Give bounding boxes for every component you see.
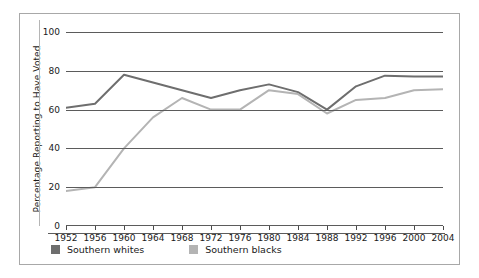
- x-tick-1976: [240, 226, 241, 230]
- x-tick-1988: [327, 226, 328, 230]
- gridline-20: [66, 187, 443, 188]
- x-tick-label-1976: 1976: [229, 234, 252, 243]
- x-tick-label-2000: 2000: [403, 234, 426, 243]
- x-tick-1984: [298, 226, 299, 230]
- legend-swatch-icon: [51, 245, 60, 254]
- x-tick-label-1980: 1980: [258, 234, 281, 243]
- x-tick-label-1952: 1952: [55, 234, 78, 243]
- y-tick-label-100: 100: [43, 28, 60, 37]
- y-tick-label-40: 40: [49, 144, 60, 153]
- x-tick-1964: [153, 226, 154, 230]
- legend-divider: [48, 233, 445, 234]
- y-tick-label-60: 60: [49, 105, 60, 114]
- x-tick-label-1964: 1964: [142, 234, 165, 243]
- x-tick-1996: [385, 226, 386, 230]
- x-tick-label-1968: 1968: [171, 234, 194, 243]
- chart-figure: Percentage Reporting to Have Voted 02040…: [19, 13, 460, 265]
- x-tick-1968: [182, 226, 183, 230]
- legend-entry-southern-whites: Southern whites: [51, 244, 144, 255]
- x-tick-1980: [269, 226, 270, 230]
- x-tick-1972: [211, 226, 212, 230]
- x-axis-line: [66, 225, 443, 226]
- x-tick-2000: [414, 226, 415, 230]
- gridlines-group: 0204060801001952195619601964196819721976…: [66, 32, 443, 226]
- gridline-40: [66, 148, 443, 149]
- x-tick-label-1956: 1956: [84, 234, 107, 243]
- x-tick-1952: [66, 226, 67, 230]
- y-tick-label-20: 20: [49, 183, 60, 192]
- gridline-100: [66, 32, 443, 33]
- chart-legend: Southern whitesSouthern blacks: [51, 244, 282, 255]
- legend-entry-southern-blacks: Southern blacks: [189, 244, 281, 255]
- x-tick-label-1992: 1992: [345, 234, 368, 243]
- x-tick-2004: [443, 226, 444, 230]
- x-tick-1992: [356, 226, 357, 230]
- x-tick-1956: [95, 226, 96, 230]
- y-tick-label-80: 80: [49, 66, 60, 75]
- y-axis-line: [39, 20, 40, 226]
- y-tick-label-0: 0: [54, 222, 60, 231]
- gridline-80: [66, 71, 443, 72]
- plot-area: 0204060801001952195619601964196819721976…: [66, 32, 443, 226]
- gridline-60: [66, 110, 443, 111]
- x-tick-label-1996: 1996: [374, 234, 397, 243]
- y-axis-title-label: Percentage Reporting to Have Voted: [32, 45, 42, 212]
- x-tick-label-1960: 1960: [113, 234, 136, 243]
- x-tick-1960: [124, 226, 125, 230]
- y-axis-title: Percentage Reporting to Have Voted: [30, 32, 44, 226]
- x-tick-label-1988: 1988: [316, 234, 339, 243]
- legend-label: Southern whites: [67, 244, 144, 255]
- x-tick-label-1984: 1984: [287, 234, 310, 243]
- legend-swatch-icon: [189, 245, 198, 254]
- x-tick-label-1972: 1972: [200, 234, 223, 243]
- legend-label: Southern blacks: [205, 244, 281, 255]
- x-tick-label-2004: 2004: [432, 234, 455, 243]
